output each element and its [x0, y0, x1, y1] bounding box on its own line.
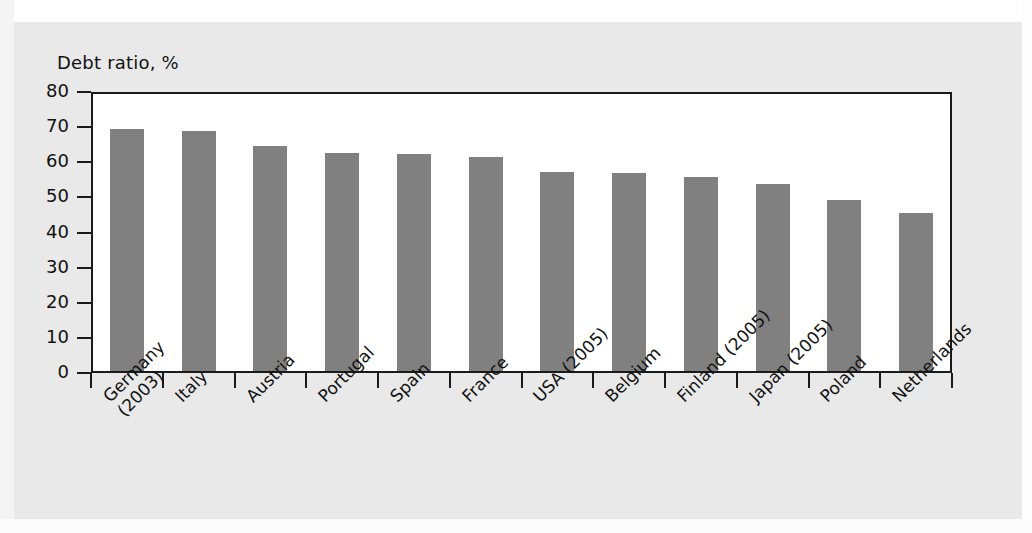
- bar: [540, 172, 574, 371]
- bar: [469, 157, 503, 371]
- x-axis-tick-mark: [305, 373, 307, 388]
- x-axis-tick-mark: [449, 373, 451, 388]
- y-axis-tick-label: 60: [46, 150, 69, 171]
- bar: [684, 177, 718, 371]
- y-axis-tick-mark: [77, 232, 91, 234]
- bar: [827, 200, 861, 371]
- chart-page: Debt ratio, % 01020304050607080 Germany …: [0, 0, 1032, 533]
- bar: [899, 213, 933, 371]
- bar: [110, 129, 144, 371]
- y-axis-tick-label: 30: [46, 256, 69, 277]
- y-axis-tick-mark: [77, 267, 91, 269]
- x-axis-tick-mark: [377, 373, 379, 388]
- y-axis-tick-mark: [77, 91, 91, 93]
- y-axis-tick-label: 20: [46, 291, 69, 312]
- x-axis-tick-mark: [808, 373, 810, 388]
- x-axis-tick-mark: [736, 373, 738, 388]
- y-axis-tick-mark: [77, 372, 91, 374]
- page-left-edge: [0, 0, 14, 533]
- x-axis-tick-mark: [234, 373, 236, 388]
- y-axis-tick-mark: [77, 196, 91, 198]
- bar: [325, 153, 359, 371]
- chart-title: Debt ratio, %: [57, 52, 179, 73]
- y-axis-tick-label: 40: [46, 221, 69, 242]
- page-bottom-edge: [0, 519, 1032, 533]
- bar: [612, 173, 646, 371]
- x-axis-tick-mark: [879, 373, 881, 388]
- bar: [397, 154, 431, 371]
- bar: [756, 184, 790, 371]
- bar: [182, 131, 216, 371]
- x-axis-tick-mark: [951, 373, 953, 388]
- x-axis-tick-mark: [664, 373, 666, 388]
- x-axis-tick-mark: [90, 373, 92, 388]
- y-axis-tick-label: 70: [46, 115, 69, 136]
- page-right-edge: [1022, 0, 1032, 533]
- page-top-edge: [0, 0, 1032, 22]
- x-axis-tick-mark: [592, 373, 594, 388]
- y-axis-tick-mark: [77, 161, 91, 163]
- y-axis-tick-label: 0: [58, 361, 69, 382]
- y-axis-tick-label: 80: [46, 80, 69, 101]
- y-axis-tick-mark: [77, 126, 91, 128]
- y-axis-tick-mark: [77, 337, 91, 339]
- x-axis-tick-mark: [521, 373, 523, 388]
- y-axis-tick-label: 10: [46, 326, 69, 347]
- y-axis-tick-mark: [77, 302, 91, 304]
- y-axis-tick-label: 50: [46, 185, 69, 206]
- bar: [253, 146, 287, 371]
